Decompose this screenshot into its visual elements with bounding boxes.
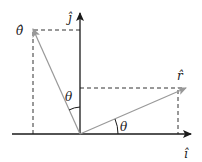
theta-label-lower: θ [120, 120, 128, 134]
theta-arc-lower [115, 119, 118, 134]
i-hat-label: î [184, 147, 189, 161]
j-hat-label: ĵ [66, 11, 73, 25]
theta-label-upper: θ [65, 90, 73, 104]
theta-hat-vector [33, 29, 80, 134]
theta-arc-upper [69, 107, 80, 110]
theta-hat-label: θ̂ [16, 24, 24, 38]
projection-lines [33, 30, 182, 134]
r-hat-vector [80, 88, 186, 134]
r-hat-label: r̂ [177, 69, 184, 83]
unit-vector-diagram: ĵ θ̂ r̂ î θ θ [0, 0, 202, 162]
